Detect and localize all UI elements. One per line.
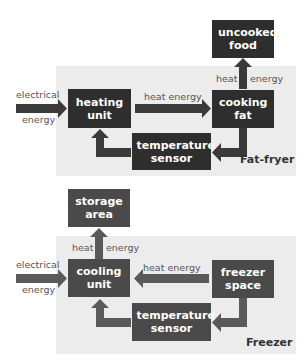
storage-area-label: storage area bbox=[75, 195, 123, 221]
electrical-label: electrical bbox=[16, 259, 60, 270]
cooling-unit-label: cooling unit bbox=[75, 265, 123, 291]
freezer-space-label: freezer space bbox=[219, 266, 267, 292]
energy-out-label: energy bbox=[106, 242, 139, 253]
heat-energy-label: heat energy bbox=[143, 262, 201, 273]
arrow-icon bbox=[212, 298, 247, 332]
freezer-title: Freezer bbox=[246, 336, 292, 349]
arrow-icon bbox=[91, 299, 131, 327]
heat-label: heat bbox=[72, 242, 93, 253]
freezer-space-box: freezer space bbox=[212, 260, 274, 298]
temperature-sensor-box: temperature sensor bbox=[132, 303, 211, 341]
temperature-sensor-label: temperature sensor bbox=[137, 309, 207, 335]
energy-label: energy bbox=[22, 284, 55, 295]
storage-area-box: storage area bbox=[68, 189, 130, 227]
cooling-unit-box: cooling unit bbox=[68, 259, 130, 297]
